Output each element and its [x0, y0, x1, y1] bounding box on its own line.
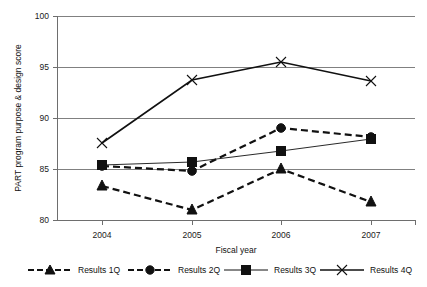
legend-label-results-4q: Results 4Q [370, 265, 412, 275]
legend-label-results-2q: Results 2Q [178, 265, 220, 275]
x-tick-label-2004: 2004 [93, 230, 112, 240]
y-tick-label-100: 100 [35, 11, 49, 21]
legend-label-results-1q: Results 1Q [78, 265, 120, 275]
data-point-3q-2006 [277, 147, 286, 156]
data-point-2q-2005 [188, 167, 197, 176]
y-tick-label-85: 85 [40, 164, 50, 174]
y-tick-label-80: 80 [40, 215, 50, 225]
data-point-2q-2006 [277, 124, 286, 133]
y-tick-label-90: 90 [40, 113, 50, 123]
chart-container: 100 95 90 85 80 2004 2005 2006 2007 Fisc… [0, 0, 427, 287]
data-point-2q-2007 [367, 133, 376, 142]
circle-icon [146, 266, 154, 274]
x-tick-label-2007: 2007 [362, 230, 381, 240]
y-tick-label-95: 95 [40, 62, 50, 72]
y-axis-title: PART program purpose & design score [13, 44, 23, 192]
square-icon [242, 266, 251, 275]
x-axis-title: Fiscal year [215, 245, 256, 255]
x-tick-label-2005: 2005 [183, 230, 202, 240]
x-tick-label-2006: 2006 [272, 230, 291, 240]
legend-label-results-3q: Results 3Q [274, 265, 316, 275]
data-point-3q-2005 [188, 158, 197, 167]
data-point-2q-2004 [98, 162, 107, 171]
line-chart: 100 95 90 85 80 2004 2005 2006 2007 Fisc… [0, 0, 427, 287]
chart-background [0, 0, 427, 287]
